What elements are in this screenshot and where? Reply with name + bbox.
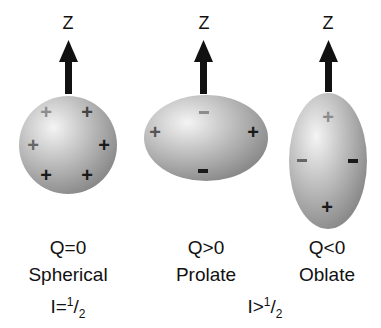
z-axis-label: Z bbox=[318, 13, 338, 34]
quadrupole-label-spherical: Q=0 bbox=[18, 238, 118, 258]
spin-prefix: I= bbox=[50, 296, 66, 317]
spin-numerator: 1 bbox=[67, 295, 74, 309]
shape-name-oblate: Oblate bbox=[277, 265, 377, 285]
charge-minus-icon bbox=[198, 169, 208, 173]
charge-plus-icon: + bbox=[149, 121, 161, 143]
shape-name-prolate: Prolate bbox=[156, 265, 256, 285]
z-axis-label: Z bbox=[58, 13, 78, 34]
quadrupole-label-oblate: Q<0 bbox=[277, 238, 377, 258]
z-axis-label: Z bbox=[194, 13, 214, 34]
charge-minus-icon bbox=[297, 159, 307, 162]
spin-label-half: I=1/2 bbox=[18, 292, 118, 324]
spin-prefix: I> bbox=[247, 296, 263, 317]
charge-plus-icon: + bbox=[27, 134, 39, 156]
charge-plus-icon: + bbox=[321, 196, 333, 218]
quadrupole-label-prolate: Q>0 bbox=[156, 238, 256, 258]
charge-plus-icon: + bbox=[40, 164, 52, 186]
spin-numerator: 1 bbox=[264, 295, 271, 309]
charge-plus-icon: + bbox=[98, 134, 110, 156]
z-axis-arrow-icon bbox=[194, 40, 213, 94]
z-axis-arrow-icon bbox=[319, 40, 338, 92]
oblate-nucleus: + + bbox=[289, 40, 367, 229]
z-axis-arrow-icon bbox=[59, 40, 78, 94]
spherical-nucleus: + + + + + + bbox=[19, 40, 117, 194]
charge-plus-icon: + bbox=[40, 101, 52, 123]
charge-plus-icon: + bbox=[247, 121, 259, 143]
spin-label-greater: I>1/2 bbox=[215, 292, 315, 324]
charge-plus-icon: + bbox=[81, 101, 93, 123]
charge-minus-icon bbox=[199, 111, 209, 114]
prolate-nucleus: + + bbox=[144, 40, 268, 181]
spin-denominator: 2 bbox=[276, 307, 283, 321]
shape-name-spherical: Spherical bbox=[18, 265, 118, 285]
charge-plus-icon: + bbox=[81, 164, 93, 186]
charge-plus-icon: + bbox=[322, 106, 334, 128]
spin-denominator: 2 bbox=[79, 307, 86, 321]
charge-minus-icon bbox=[348, 159, 358, 163]
